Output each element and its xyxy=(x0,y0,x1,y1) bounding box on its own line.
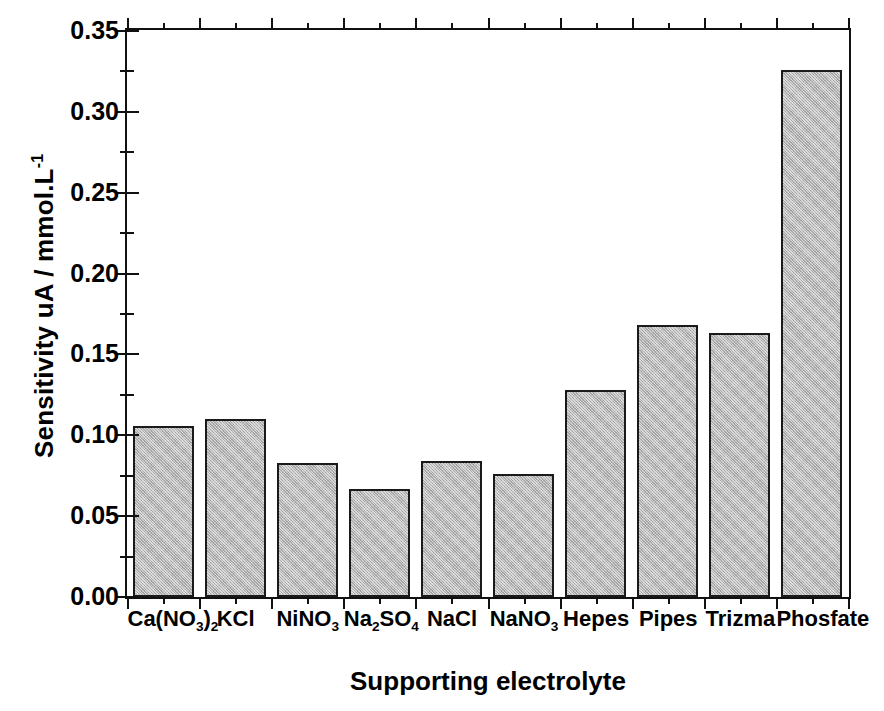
y-tick-minor xyxy=(120,151,127,153)
x-tick-minor xyxy=(307,597,309,604)
x-tick-major xyxy=(271,18,273,30)
x-tick-major xyxy=(632,18,634,30)
y-axis-title: Sensitivity uA / mmol.L-1 xyxy=(28,96,60,516)
x-tick-minor xyxy=(163,597,165,604)
y-tick-minor-right xyxy=(127,313,134,315)
x-axis-title: Supporting electrolyte xyxy=(125,666,851,697)
y-tick-minor xyxy=(120,70,127,72)
x-tick-major xyxy=(560,18,562,30)
y-tick-major-right xyxy=(127,515,139,517)
x-tick-minor xyxy=(668,597,670,604)
plot-area: 0.000.050.100.150.200.250.300.35 xyxy=(125,28,851,599)
x-tick-major xyxy=(776,18,778,30)
y-tick-major-right xyxy=(127,434,139,436)
x-tick-minor xyxy=(812,597,814,604)
x-category-label: Phosfate xyxy=(776,608,848,630)
y-tick-major-right xyxy=(127,273,139,275)
y-tick-label: 0.10 xyxy=(70,422,119,447)
x-tick-major xyxy=(199,18,201,30)
bar-hepes xyxy=(565,390,626,597)
y-tick-label: 0.15 xyxy=(70,341,119,366)
x-tick-major xyxy=(127,18,129,30)
y-tick-minor-right xyxy=(127,232,134,234)
y-tick-label: 0.25 xyxy=(70,179,119,204)
y-tick-minor xyxy=(120,394,127,396)
x-tick-minor xyxy=(235,597,237,604)
y-tick-minor-right xyxy=(127,151,134,153)
x-tick-minor xyxy=(451,597,453,604)
x-tick-major xyxy=(848,18,850,30)
y-tick-minor xyxy=(120,475,127,477)
x-tick-minor xyxy=(740,597,742,604)
x-tick-minor xyxy=(451,23,453,30)
y-tick-minor xyxy=(120,313,127,315)
x-tick-major xyxy=(704,18,706,30)
y-tick-minor-right xyxy=(127,475,134,477)
x-category-label: NiNO3 xyxy=(272,608,344,633)
y-tick-minor xyxy=(120,556,127,558)
bar-kcl xyxy=(205,419,266,597)
y-tick-minor-right xyxy=(127,394,134,396)
x-category-label: KCl xyxy=(200,608,272,630)
y-axis-title-main: Sensitivity uA / mmol.L xyxy=(29,168,59,458)
x-tick-minor xyxy=(235,23,237,30)
bar-pipes xyxy=(637,325,698,597)
y-tick-label: 0.05 xyxy=(70,503,119,528)
bar-na2so4 xyxy=(349,489,410,597)
x-category-label: Trizma xyxy=(704,608,776,630)
x-tick-major xyxy=(488,18,490,30)
y-tick-major-right xyxy=(127,353,139,355)
y-tick-label: 0.30 xyxy=(70,98,119,123)
x-tick-minor xyxy=(740,23,742,30)
x-tick-minor xyxy=(812,23,814,30)
y-tick-label: 0.00 xyxy=(70,584,119,609)
y-tick-label: 0.35 xyxy=(70,18,119,43)
x-tick-minor xyxy=(379,597,381,604)
x-category-label: Hepes xyxy=(560,608,632,630)
x-tick-minor xyxy=(524,23,526,30)
y-axis-title-exponent: -1 xyxy=(28,154,46,169)
y-tick-major-right xyxy=(127,111,139,113)
bar-phosfate xyxy=(781,70,842,597)
x-tick-major xyxy=(415,18,417,30)
y-tick-label: 0.20 xyxy=(70,260,119,285)
x-category-label: NaNO3 xyxy=(488,608,560,633)
x-category-label: Na2SO4 xyxy=(344,608,416,633)
x-tick-minor xyxy=(379,23,381,30)
y-tick-major-right xyxy=(127,192,139,194)
x-category-label: Pipes xyxy=(632,608,704,630)
x-category-label: Ca(NO3)2 xyxy=(128,608,200,633)
x-tick-minor xyxy=(163,23,165,30)
x-tick-minor xyxy=(307,23,309,30)
y-tick-minor xyxy=(120,232,127,234)
x-tick-minor xyxy=(668,23,670,30)
chart-figure: Sensitivity uA / mmol.L-1 0.000.050.100.… xyxy=(0,0,884,711)
bar-nacl xyxy=(421,461,482,597)
x-tick-minor xyxy=(596,597,598,604)
y-tick-minor-right xyxy=(127,70,134,72)
x-category-label: NaCl xyxy=(416,608,488,630)
bar-ca-no3-2 xyxy=(133,426,194,597)
x-tick-minor xyxy=(524,597,526,604)
bar-nano3 xyxy=(493,474,554,597)
bar-trizma xyxy=(709,333,770,597)
y-tick-minor-right xyxy=(127,556,134,558)
x-tick-minor xyxy=(596,23,598,30)
y-tick-major-right xyxy=(127,30,139,32)
x-tick-major xyxy=(343,18,345,30)
plot-inner: 0.000.050.100.150.200.250.300.35 xyxy=(127,30,849,597)
bar-nino3 xyxy=(277,463,338,597)
